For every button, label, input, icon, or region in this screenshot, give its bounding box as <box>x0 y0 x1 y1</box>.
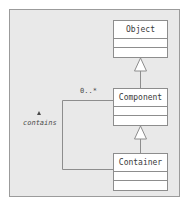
diagram-screenshot: Object Component Container 0..* contains <box>0 0 191 207</box>
class-box-object[interactable]: Object <box>113 20 168 58</box>
class-name-object: Object <box>114 21 167 39</box>
class-attributes-object <box>114 39 167 48</box>
class-box-component[interactable]: Component <box>113 88 168 126</box>
class-operations-object <box>114 48 167 57</box>
multiplicity-label: 0..* <box>80 87 97 95</box>
class-name-container: Container <box>114 154 167 172</box>
association-direction-triangle-icon <box>37 111 41 115</box>
class-name-component: Component <box>114 89 167 107</box>
class-attributes-container <box>114 172 167 181</box>
class-operations-component <box>114 116 167 125</box>
class-operations-container <box>114 181 167 190</box>
association-name-label: contains <box>23 119 57 127</box>
class-box-container[interactable]: Container <box>113 153 168 191</box>
class-attributes-component <box>114 107 167 116</box>
